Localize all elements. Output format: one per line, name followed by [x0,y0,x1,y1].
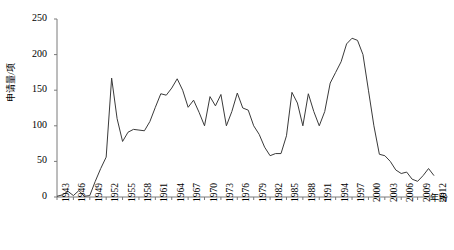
x-axis-tick-label: 1970 [209,183,219,202]
x-axis-tick-label: 1985 [290,183,300,202]
x-axis-tick-label: 1958 [143,183,153,202]
x-axis-tick-label: 1961 [159,183,169,202]
x-axis-tick-label: 1988 [307,183,317,202]
x-axis-tick-label: 2000 [372,183,382,202]
x-axis-tick-label: 1943 [61,183,71,202]
x-axis-tick-label: 2003 [389,183,399,202]
x-axis-tick-label: 2006 [405,183,415,202]
x-axis-tick-label: 1994 [340,183,350,202]
x-axis-tick-label: 1991 [323,183,333,202]
y-axis-tick-label: 100 [13,119,47,130]
x-axis-tick-label: 1949 [94,183,104,202]
x-axis-tick-label: 1964 [176,183,186,202]
chart-axes [54,19,434,200]
chart-canvas [0,0,454,250]
data-series-line [57,38,434,196]
x-axis-tick-label: 1979 [258,183,268,202]
y-axis-tick-label: 250 [13,12,47,23]
x-axis-tick-label: 1952 [110,183,120,202]
y-axis-tick-label: 0 [13,190,47,201]
x-axis-tick-label: 1997 [356,183,366,202]
patent-application-line-chart: 申请量/项 年份 050100150200250 194319461949195… [0,0,454,250]
x-axis-tick-label: 1967 [192,183,202,202]
x-axis-tick-label: 1973 [225,183,235,202]
y-axis-tick-label: 150 [13,83,47,94]
y-axis-tick-label: 50 [13,154,47,165]
x-axis-tick-label: 1982 [274,183,284,202]
x-axis-tick-label: 1946 [77,183,87,202]
x-axis-tick-label: 2012 [438,183,448,202]
x-axis-tick-label: 1976 [241,183,251,202]
x-axis-tick-label: 2009 [422,183,432,202]
y-axis-tick-label: 200 [13,48,47,59]
x-axis-tick-label: 1955 [127,183,137,202]
